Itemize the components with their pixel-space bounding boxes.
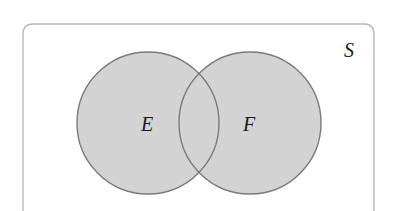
universe-label: S bbox=[344, 39, 354, 61]
venn-diagram: S E F bbox=[0, 0, 393, 211]
set-e-label: E bbox=[140, 113, 153, 135]
set-f-label: F bbox=[242, 113, 256, 135]
